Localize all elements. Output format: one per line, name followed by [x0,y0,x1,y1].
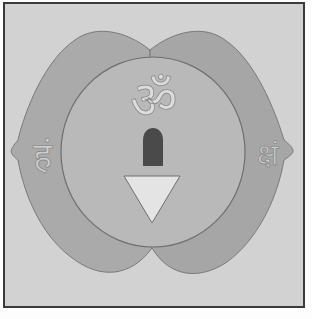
om-symbol: ॐ [130,70,177,130]
lingam-shape [143,128,163,166]
chakra-illustration: ॐ हं क्षं [0,0,312,319]
ajna-chakra-graphic: ॐ हं क्षं [0,0,312,319]
left-petal-letter: हं [33,135,53,176]
right-petal-letter: क्षं [257,137,279,172]
